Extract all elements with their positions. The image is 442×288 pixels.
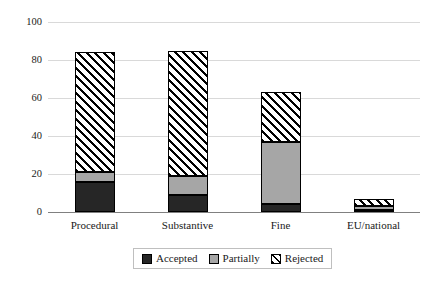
bar-group: Substantive: [161, 22, 215, 212]
bar-segment-accepted[interactable]: [354, 210, 394, 212]
bar-segment-partially[interactable]: [75, 172, 115, 182]
bar-segment-rejected[interactable]: [261, 92, 301, 141]
legend-label-accepted: Accepted: [156, 252, 198, 265]
y-axis-tick-label: 40: [4, 130, 42, 142]
bar-stack[interactable]: [354, 199, 394, 212]
bar-segment-partially[interactable]: [354, 206, 394, 210]
y-axis-tick-label: 20: [4, 168, 42, 180]
legend-item-accepted: Accepted: [142, 252, 198, 265]
bar-group: Procedural: [68, 22, 122, 212]
y-axis-tick-label: 60: [4, 92, 42, 104]
legend-item-rejected: Rejected: [271, 252, 323, 265]
x-axis-category-label: Procedural: [54, 219, 136, 232]
legend-label-partially: Partially: [223, 252, 260, 265]
legend-item-partially: Partially: [209, 252, 260, 265]
plot-area: 020406080100 ProceduralSubstantiveFineEU…: [48, 22, 420, 212]
legend-swatch-rejected: [271, 254, 281, 264]
x-axis-category-label: EU/national: [333, 219, 415, 232]
bar-group: Fine: [254, 22, 308, 212]
legend-swatch-accepted: [142, 254, 152, 264]
chart-legend: Accepted Partially Rejected: [133, 248, 332, 269]
legend-label-rejected: Rejected: [285, 252, 323, 265]
x-axis-category-label: Fine: [240, 219, 322, 232]
bar-segment-rejected[interactable]: [354, 199, 394, 207]
bar-stack[interactable]: [75, 52, 115, 212]
bar-chart: 020406080100 ProceduralSubstantiveFineEU…: [0, 0, 442, 288]
x-axis-category-label: Substantive: [147, 219, 229, 232]
bar-segment-rejected[interactable]: [168, 51, 208, 176]
bar-stack[interactable]: [261, 92, 301, 212]
y-axis-tick-label: 80: [4, 54, 42, 66]
bar-segment-accepted[interactable]: [168, 195, 208, 212]
y-axis-tick-label: 0: [4, 206, 42, 218]
y-axis-tick-label: 100: [4, 16, 42, 28]
bar-stack[interactable]: [168, 51, 208, 213]
x-axis-line: [48, 212, 420, 213]
bar-segment-accepted[interactable]: [75, 182, 115, 212]
bar-group: EU/national: [347, 22, 401, 212]
bar-segment-rejected[interactable]: [75, 52, 115, 172]
bar-segment-partially[interactable]: [261, 142, 301, 205]
bar-segment-partially[interactable]: [168, 176, 208, 195]
bar-segment-accepted[interactable]: [261, 204, 301, 212]
legend-swatch-partially: [209, 254, 219, 264]
